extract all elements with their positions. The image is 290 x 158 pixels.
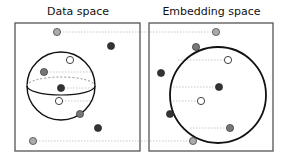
panel-frames: [15, 23, 273, 151]
left-panel-frame: [15, 23, 140, 151]
left-point-8: [29, 137, 36, 144]
left-point-7: [94, 124, 101, 131]
left-point-5: [55, 97, 62, 104]
right-point-5: [197, 97, 204, 104]
right-point-8: [189, 137, 196, 144]
right-point-7: [166, 110, 173, 117]
embedding-diagram: [0, 0, 290, 158]
left-point-6: [76, 110, 83, 117]
left-point-4: [57, 84, 64, 91]
right-point-0: [212, 28, 219, 35]
left-point-1: [107, 42, 114, 49]
embedding-circle: [170, 47, 266, 143]
right-point-1: [157, 69, 164, 76]
left-point-3: [40, 68, 47, 75]
data-points: [29, 28, 233, 144]
right-point-4: [215, 83, 222, 90]
right-point-3: [192, 43, 199, 50]
left-point-0: [53, 28, 60, 35]
right-point-6: [226, 124, 233, 131]
right-panel-frame: [149, 23, 273, 151]
right-point-2: [224, 56, 231, 63]
left-point-2: [66, 56, 73, 63]
